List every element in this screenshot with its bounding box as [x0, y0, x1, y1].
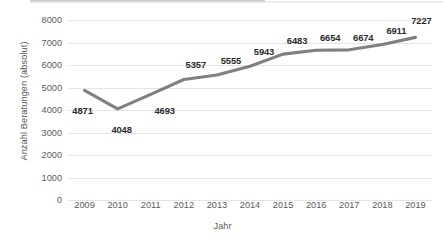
x-axis-tick-label: 2014 [240, 200, 260, 210]
x-axis-tick-label: 2010 [107, 200, 127, 210]
x-axis-tick-label: 2015 [273, 200, 293, 210]
x-axis-tick-labels: 2009201020112012201320142015201620172018… [68, 200, 432, 214]
data-label: 6654 [320, 32, 340, 43]
data-label: 4048 [111, 123, 131, 134]
data-label: 5943 [254, 46, 274, 57]
line-chart: Anzahl Beratungen (absolut) 010002000300… [0, 0, 443, 241]
y-axis-tick-label: 2000 [18, 150, 62, 160]
top-edge-strip [30, 0, 265, 3]
y-axis-tick-label: 3000 [18, 128, 62, 138]
series-line [68, 20, 432, 200]
y-axis-tick-label: 4000 [18, 105, 62, 115]
data-label: 6483 [287, 35, 307, 46]
y-axis-tick-label: 6000 [18, 60, 62, 70]
x-axis-tick-label: 2016 [306, 200, 326, 210]
x-axis-tick-label: 2009 [74, 200, 94, 210]
y-axis-tick-label: 7000 [18, 38, 62, 48]
data-label: 5555 [221, 55, 241, 66]
data-label: 6674 [353, 31, 373, 42]
plot-area: 4871404846935357555559436483665466746911… [68, 20, 432, 200]
x-axis-tick-label: 2011 [141, 200, 161, 210]
y-axis-tick-labels: 010002000300040005000600070008000 [18, 0, 62, 241]
x-axis-tick-label: 2019 [405, 200, 425, 210]
x-axis-tick-label: 2017 [339, 200, 359, 210]
data-label: 5357 [186, 59, 206, 70]
data-label: 4693 [154, 105, 174, 116]
top-edge-strip-secondary [265, 1, 443, 3]
x-axis-tick-label: 2012 [174, 200, 194, 210]
data-label: 6911 [386, 24, 406, 35]
x-axis-tick-label: 2013 [207, 200, 227, 210]
y-axis-tick-label: 0 [18, 195, 62, 205]
y-axis-tick-label: 5000 [18, 83, 62, 93]
x-axis-tick-label: 2018 [372, 200, 392, 210]
data-label: 4871 [72, 105, 92, 116]
data-label: 7227 [411, 15, 431, 26]
x-axis-title-text: Jahr [214, 221, 232, 231]
y-axis-tick-label: 8000 [18, 15, 62, 25]
x-axis-title: Jahr [0, 221, 443, 231]
y-axis-tick-label: 1000 [18, 173, 62, 183]
